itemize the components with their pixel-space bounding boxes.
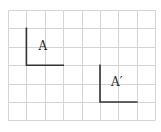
shape-a: A <box>26 28 63 65</box>
shape-a-label: A <box>37 39 47 53</box>
shape-a-prime-label: A′ <box>110 75 123 89</box>
grid-diagram: A A′ <box>0 0 161 132</box>
